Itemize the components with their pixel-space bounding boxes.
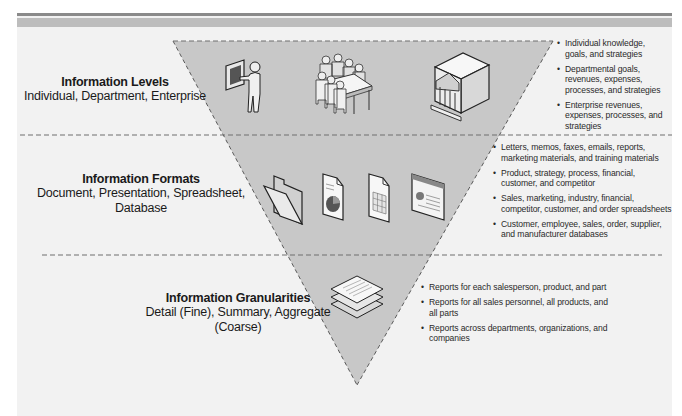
bullet-item: Departmental goals, revenues, expenses, … bbox=[557, 64, 667, 96]
spreadsheet-icon bbox=[369, 174, 389, 222]
bullets-information-formats: Letters, memos, faxes, emails, reports, … bbox=[493, 142, 673, 244]
level-title: Information Levels bbox=[0, 75, 230, 89]
bullet-item: Sales, marketing, industry, financial, c… bbox=[493, 193, 673, 214]
level-label-information-granularities: Information Granularities Detail (Fine),… bbox=[138, 291, 338, 335]
bullet-item: Reports across departments, organization… bbox=[421, 323, 611, 344]
bullet-item: Individual knowledge, goals, and strateg… bbox=[557, 38, 667, 59]
bullet-item: Reports for all sales personnel, all pro… bbox=[421, 297, 611, 318]
bullets-information-granularities: Reports for each salesperson, product, a… bbox=[421, 282, 611, 348]
bullet-item: Reports for each salesperson, product, a… bbox=[421, 282, 611, 293]
bullet-item: Enterprise revenues, expenses, processes… bbox=[557, 100, 667, 132]
bullet-item: Customer, employee, sales, order, suppli… bbox=[493, 219, 673, 240]
level-title: Information Formats bbox=[26, 172, 256, 186]
level-title: Information Granularities bbox=[138, 291, 338, 305]
level-label-information-levels: Information Levels Individual, Departmen… bbox=[0, 75, 230, 104]
bullet-item: Product, strategy, process, financial, c… bbox=[493, 168, 673, 189]
level-subtitle: Individual, Department, Enterprise bbox=[0, 89, 230, 104]
bullets-information-levels: Individual knowledge, goals, and strateg… bbox=[557, 38, 667, 136]
level-label-information-formats: Information Formats Document, Presentati… bbox=[26, 172, 256, 216]
bullet-item: Letters, memos, faxes, emails, reports, … bbox=[493, 142, 673, 163]
level-subtitle: Detail (Fine), Summary, Aggregate (Coars… bbox=[138, 305, 338, 335]
level-subtitle: Document, Presentation, Spreadsheet, Dat… bbox=[26, 186, 256, 216]
